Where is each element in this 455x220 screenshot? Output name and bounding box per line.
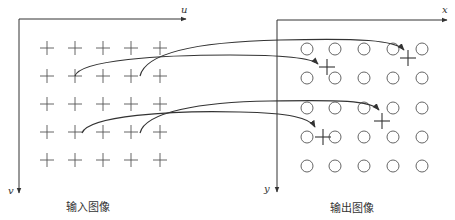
input-pixel-cross [96,69,110,83]
output-pixel-circle [301,72,313,84]
output-pixel-circle [416,160,428,172]
output-pixel-circle [416,102,428,114]
output-pixel-circle [358,160,370,172]
input-pixel-cross [40,125,54,139]
mapping-arrows [75,39,404,133]
input-pixel-cross [124,41,138,55]
output-pixel-circle [329,160,341,172]
input-pixel-cross [153,41,167,55]
output-pixel-circle [387,102,399,114]
input-pixel-cross [124,125,138,139]
mapped-point-cross [400,50,416,66]
input-pixel-cross [153,97,167,111]
output-pixel-circle [387,131,399,143]
mapping-arrow [140,39,404,76]
output-pixel-circle [358,131,370,143]
input-pixel-cross [96,97,110,111]
output-pixel-circle [301,160,313,172]
input-pixel-cross [68,97,82,111]
input-pixel-cross [68,153,82,167]
output-pixel-circle [329,43,341,55]
output-pixel-grid [301,43,428,172]
output-pixel-circle [301,131,313,143]
u-axis-label: u [181,4,187,15]
input-pixel-cross [153,153,167,167]
input-pixel-cross [40,153,54,167]
output-pixel-circle [416,43,428,55]
mapped-point-cross [315,129,331,145]
image-transform-diagram: u v x y [0,0,455,220]
mapping-arrow [82,112,315,133]
output-pixel-circle [387,72,399,84]
output-pixel-circle [358,72,370,84]
input-pixel-cross [68,125,82,139]
input-pixel-cross [40,69,54,83]
input-pixel-cross [153,69,167,83]
output-pixel-circle [416,131,428,143]
input-pixel-cross [153,125,167,139]
input-pixel-cross [40,97,54,111]
input-pixel-cross [124,153,138,167]
input-image-caption: 输入图像 [66,198,110,214]
input-pixel-cross [40,41,54,55]
input-axes: u v [8,4,187,196]
input-pixel-cross [96,125,110,139]
input-pixel-cross [96,41,110,55]
output-pixel-circle [358,43,370,55]
input-pixel-cross [96,153,110,167]
output-image-caption: 输出图像 [330,199,374,215]
output-pixel-circle [301,43,313,55]
v-axis-label: v [8,185,14,196]
output-pixel-circle [416,72,428,84]
x-axis-label: x [442,4,448,15]
mapping-arrow [75,55,318,76]
mapped-point-cross [374,113,390,129]
output-pixel-circle [329,72,341,84]
input-pixel-grid [40,41,167,167]
input-pixel-cross [124,97,138,111]
input-pixel-cross [68,41,82,55]
output-axes: x y [263,4,448,194]
output-pixel-circle [387,160,399,172]
output-pixel-circle [329,102,341,114]
output-pixel-circle [301,102,313,114]
y-axis-label: y [263,183,270,194]
input-pixel-cross [124,69,138,83]
mapping-arrow [140,101,379,133]
